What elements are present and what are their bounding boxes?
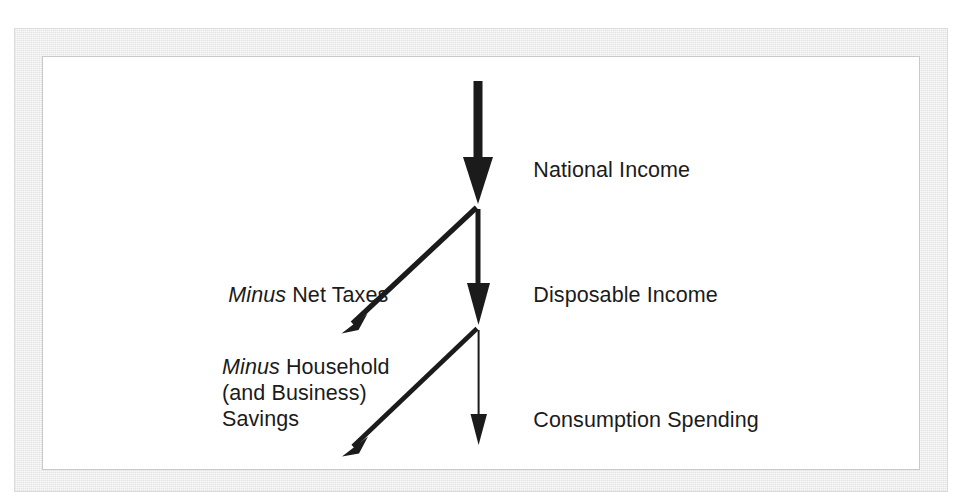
label-minus-household-savings: Minus Household(and Business)Savings bbox=[222, 354, 390, 432]
label-national-income-text: National Income bbox=[533, 158, 690, 182]
label-minus-net-taxes-rest: Net Taxes bbox=[286, 283, 388, 307]
label-minus-household-rest: Household bbox=[280, 355, 390, 379]
figure-panel bbox=[42, 56, 920, 470]
label-minus-household-line3: Savings bbox=[222, 407, 299, 431]
label-minus-net-taxes: Minus Net Taxes bbox=[204, 256, 388, 334]
label-disposable-income-text: Disposable Income bbox=[533, 283, 718, 307]
label-disposable-income: Disposable Income bbox=[509, 256, 718, 334]
label-national-income: National Income bbox=[509, 131, 690, 209]
label-consumption-spending: Consumption Spending bbox=[509, 381, 759, 459]
label-consumption-spending-text: Consumption Spending bbox=[533, 408, 759, 432]
label-minus-household-line2: (and Business) bbox=[222, 381, 367, 405]
label-minus-net-taxes-emphasis: Minus bbox=[228, 283, 286, 307]
label-minus-household-emphasis: Minus bbox=[222, 355, 280, 379]
figure-root: National Income Disposable Income Consum… bbox=[0, 0, 962, 498]
